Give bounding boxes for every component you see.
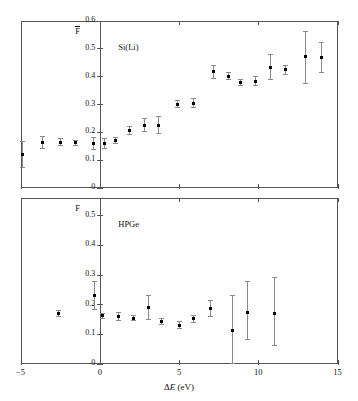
y-tick-bottom-1 [97,334,103,335]
data-point [189,314,197,323]
y-tick-top-4 [97,76,103,77]
data-point [129,314,137,320]
error-bar-cap-bottom [272,345,277,346]
error-bar-cap-top [283,65,288,66]
data-point [91,280,99,310]
error-bar-cap-bottom [131,320,136,321]
x-tick-bottom-3 [258,360,259,365]
data-marker [284,68,287,71]
y-tick-label-top-6: 0.6 [66,16,95,24]
data-marker [192,102,195,105]
y-tick-bottom-3 [97,275,103,276]
error-bar-cap-bottom [208,316,213,317]
data-marker [239,81,242,84]
error-bar-cap-bottom [40,148,45,149]
error-bar-cap-top [230,295,235,296]
error-bar-cap-bottom [191,107,196,108]
x-tick-top-1 [100,184,101,189]
y-tick-top-3 [97,104,103,105]
error-bar-cap-bottom [116,320,121,321]
data-marker [143,124,146,127]
error-bar-cap-top [175,100,180,101]
x-tick-label-3: 10 [238,368,278,377]
error-bar-cap-top [238,79,243,80]
y-tick-label-top-5: 0.5 [66,44,95,52]
error-bar-cap-bottom [159,324,164,325]
data-marker [21,153,24,156]
x-tick-bottom-0 [21,360,22,365]
x-axis-title-unit: (eV) [175,382,194,392]
x-axis-title: ΔE (eV) [21,382,338,392]
x-tick-label-0: −5 [1,368,41,377]
error-bar-cap-bottom [102,148,107,149]
panel-title-top: Si(Li) [118,43,138,52]
error-bar-cap-top [253,76,258,77]
error-bar-cap-bottom [303,83,308,84]
error-bar-cap-top [303,31,308,32]
error-bar-cap-bottom [283,74,288,75]
x-tick-top-3 [258,184,259,189]
x-tick-bottom-4 [338,360,339,365]
data-point [112,136,120,144]
error-bar-cap-top [208,300,213,301]
error-bar-cap-top [20,141,25,142]
x-tick-top-top-0 [21,21,22,25]
error-bar-cap-top [177,321,182,322]
data-marker [269,66,272,69]
error-bar-cap-top [40,136,45,137]
x-tick-bottom-1 [100,360,101,365]
data-marker [320,56,323,59]
data-marker [147,306,150,309]
data-point [237,78,245,87]
data-marker [227,75,230,78]
error-bar-cap-top [191,98,196,99]
error-bar-cap-bottom [230,363,235,364]
error-bar-cap-top [142,118,147,119]
data-marker [178,324,181,327]
data-point [267,53,275,80]
data-marker [41,141,44,144]
data-point [207,299,215,316]
data-marker [212,70,215,73]
error-bar-cap-bottom [127,134,132,135]
error-bar-cap-top [272,277,277,278]
y-tick-label-bottom-3: 0.3 [66,270,95,278]
y-tick-bottom-4 [97,245,103,246]
data-marker [117,315,120,318]
error-bar-cap-bottom [238,85,243,86]
data-point [145,294,153,320]
error-bar-cap-bottom [73,145,78,146]
y-tick-bottom-5 [97,215,103,216]
data-marker [128,129,131,132]
x-tick-top-top-3 [258,21,259,25]
error-bar-cap-bottom [20,167,25,168]
data-point [210,64,218,79]
data-point [126,125,134,135]
data-point [72,139,80,146]
data-point [39,135,47,149]
x-tick-top-top-4 [338,21,339,25]
error-bar-cap-bottom [177,328,182,329]
data-point [270,276,278,346]
data-point [55,309,63,317]
x-tick-top-bottom-0 [21,198,22,202]
data-marker [254,80,257,83]
panel-title-bottom: HPGe [118,220,139,229]
y-tick-label-top-2: 0.2 [66,127,95,135]
data-point [140,117,148,131]
error-bar-cap-top [113,137,118,138]
data-point [302,30,310,84]
x-tick-top-bottom-1 [100,198,101,202]
data-point [56,137,64,146]
x-tick-top-top-2 [179,21,180,25]
x-tick-label-4: 15 [318,368,358,377]
error-bar-cap-bottom [319,72,324,73]
error-bar-cap-bottom [268,79,273,80]
x-tick-bottom-2 [179,360,180,365]
y-tick-label-bottom-4: 0.4 [66,240,95,248]
y-tick-label-top-1: 0.1 [66,155,95,163]
y-tick-label-top-4: 0.4 [66,72,95,80]
error-bar-cap-top [116,312,121,313]
error-bar-cap-bottom [58,145,63,146]
error-bar-cap-top [56,310,61,311]
